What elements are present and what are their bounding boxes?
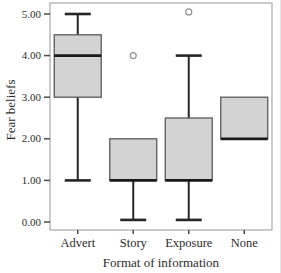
y-tick-label: 2.00 xyxy=(22,132,42,144)
y-tick-label: 0.00 xyxy=(22,216,42,228)
plot-area: 0.001.002.003.004.005.00AdvertStoryExpos… xyxy=(0,0,280,273)
box-exposure xyxy=(165,118,212,180)
outlier-exposure xyxy=(186,9,192,15)
outlier-story xyxy=(130,53,136,59)
y-tick-label: 3.00 xyxy=(22,91,42,103)
boxplot-figure: 0.001.002.003.004.005.00AdvertStoryExpos… xyxy=(0,0,281,273)
box-none xyxy=(221,97,268,139)
y-axis-title: Fear beliefs xyxy=(3,79,19,140)
box-story xyxy=(110,139,157,181)
y-tick-label: 5.00 xyxy=(22,8,42,20)
x-tick-label-none: None xyxy=(231,236,259,250)
box-advert xyxy=(54,35,101,97)
y-tick-label: 4.00 xyxy=(22,49,42,61)
x-tick-label-story: Story xyxy=(120,236,148,250)
x-axis-title: Format of information xyxy=(50,255,272,271)
y-tick-label: 1.00 xyxy=(22,174,42,186)
x-tick-label-advert: Advert xyxy=(60,236,95,250)
x-tick-label-exposure: Exposure xyxy=(165,236,213,250)
